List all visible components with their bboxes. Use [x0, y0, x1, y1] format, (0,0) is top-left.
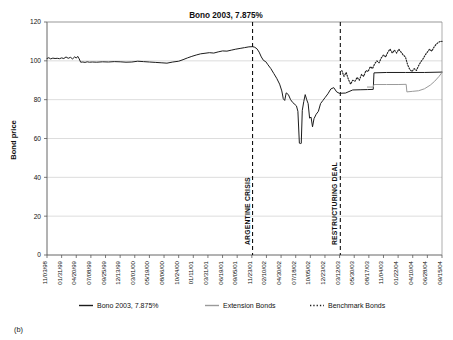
x-tick-label: 10/05/02 [304, 260, 311, 284]
annotation-label: ARGENTINE CRISIS [244, 177, 251, 245]
x-tick-label: 10/24/00 [173, 260, 180, 284]
x-tick-label: 08/06/00 [158, 260, 165, 284]
x-tick-label: 02/10/02 [260, 260, 267, 284]
y-tick-label: 120 [30, 18, 41, 25]
x-tick-label: 05/19/00 [143, 260, 150, 284]
y-axis-ticks: 020406080100120 [30, 18, 47, 258]
x-tick-label: 03/31/01 [202, 260, 209, 284]
x-tick-label: 11/04/03 [377, 260, 384, 284]
x-tick-label: 12/13/99 [114, 260, 121, 284]
data-series-group [47, 41, 442, 143]
series-line [367, 72, 442, 91]
x-tick-label: 01/11/01 [187, 260, 194, 284]
legend-label: Bono 2003, 7.875% [97, 302, 159, 309]
x-tick-label: 09/25/99 [100, 260, 107, 284]
y-tick-label: 20 [34, 213, 42, 220]
y-tick-label: 40 [34, 174, 42, 181]
chart-title: Bono 2003, 7.875% [189, 11, 263, 20]
x-axis-ticks: 11/03/9801/31/9904/20/9907/08/9909/25/99… [41, 255, 443, 285]
y-tick-label: 80 [34, 96, 42, 103]
x-tick-label: 06/28/04 [421, 260, 428, 284]
x-tick-label: 09/05/01 [231, 260, 238, 284]
y-axis-label: Bond price [9, 120, 18, 160]
y-tick-label: 100 [30, 57, 41, 64]
y-tick-label: 60 [34, 135, 42, 142]
x-tick-label: 07/18/02 [290, 260, 297, 284]
x-tick-label: 04/30/02 [275, 260, 282, 284]
x-tick-label: 04/20/99 [70, 260, 77, 284]
legend-label: Extension Bonds [223, 302, 276, 309]
annotation-label: RESTRUCTURING DEAL [331, 162, 338, 245]
series-line [342, 41, 442, 84]
series-line [47, 47, 442, 144]
x-tick-label: 01/31/99 [56, 260, 63, 284]
x-tick-label: 03/12/03 [334, 260, 341, 284]
legend-label: Benchmark Bonds [328, 302, 386, 309]
figure-panel: 020406080100120 11/03/9801/31/9904/20/99… [0, 0, 453, 340]
x-tick-label: 12/23/02 [319, 260, 326, 284]
x-tick-label: 03/01/00 [129, 260, 136, 284]
figure-caption: (b) [14, 325, 23, 334]
x-tick-label: 05/30/03 [348, 260, 355, 284]
x-tick-label: 06/19/01 [217, 260, 224, 284]
x-tick-label: 07/08/99 [85, 260, 92, 284]
x-tick-label: 08/17/03 [363, 260, 370, 284]
y-tick-label: 0 [37, 251, 41, 258]
x-tick-label: 04/10/04 [407, 260, 414, 284]
x-tick-label: 09/15/04 [436, 260, 443, 284]
bond-price-line-chart: 020406080100120 11/03/9801/31/9904/20/99… [0, 0, 453, 340]
x-tick-label: 11/03/98 [41, 260, 48, 284]
chart-legend: Bono 2003, 7.875%Extension BondsBenchmar… [79, 302, 386, 309]
x-tick-label: 11/23/01 [246, 260, 253, 284]
x-tick-label: 01/22/04 [392, 260, 399, 284]
